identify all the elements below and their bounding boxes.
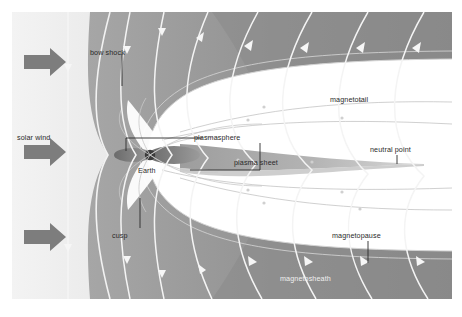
label-plasmasphere: plasmasphere (194, 133, 240, 142)
label-solar-wind: solar wind (17, 133, 50, 142)
diagram-canvas: bow shock solar wind cusp Earth plasmasp… (12, 12, 452, 299)
label-magnetosheath: magnetosheath (280, 274, 331, 283)
label-earth: Earth (138, 166, 156, 175)
label-plasma-sheet: plasma sheet (234, 158, 278, 167)
label-magnetotail: magnetotail (330, 95, 368, 104)
magnetosphere-diagram (12, 12, 452, 299)
label-neutral-point: neutral point (370, 145, 411, 154)
label-bow-shock: bow shock (90, 48, 125, 57)
label-cusp: cusp (112, 231, 128, 240)
label-magnetopause: magnetopause (332, 231, 381, 240)
figure-root: bow shock solar wind cusp Earth plasmasp… (0, 0, 462, 317)
plasmasphere-region-nightside (148, 146, 200, 164)
